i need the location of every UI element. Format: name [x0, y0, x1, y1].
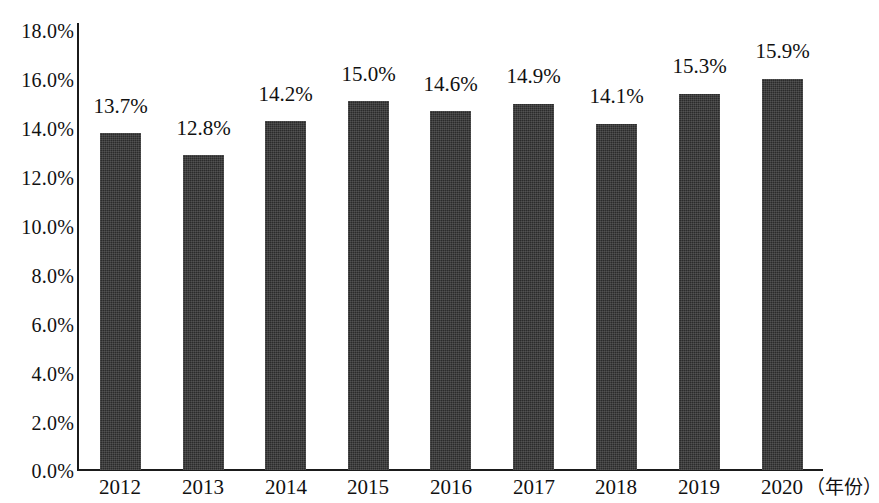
x-tick-label-2014: 2014 [241, 477, 331, 498]
x-axis-title: （年份） [806, 478, 879, 497]
bar-value-label: 14.6% [423, 74, 477, 95]
bar-rect [265, 121, 306, 470]
y-axis-line [77, 23, 79, 471]
bar-chart-figure: 18.0% 16.0% 14.0% 12.0% 10.0% 8.0% 6.0% … [0, 0, 879, 503]
y-tick-label: 14.0% [2, 119, 74, 139]
y-tick-label: 16.0% [2, 70, 74, 90]
x-tick-label-2018: 2018 [571, 477, 661, 498]
bar-value-label: 15.0% [341, 64, 395, 85]
y-axis-labels: 18.0% 16.0% 14.0% 12.0% 10.0% 8.0% 6.0% … [0, 0, 74, 503]
bar-value-label: 15.9% [755, 41, 809, 62]
bar-rect [183, 155, 224, 470]
x-tick-label-2012: 2012 [75, 477, 165, 498]
bar-rect [513, 104, 554, 470]
bar-value-label: 14.1% [589, 86, 643, 107]
bar-rect [100, 133, 141, 470]
y-tick-label: 18.0% [2, 21, 74, 41]
y-tick-label: 4.0% [2, 364, 74, 384]
bar-value-label: 14.9% [506, 66, 560, 87]
bar-rect [430, 111, 471, 470]
x-tick-label-2016: 2016 [406, 477, 496, 498]
y-tick-label: 0.0% [2, 461, 74, 481]
x-tick-label-2013: 2013 [158, 477, 248, 498]
x-tick-label-2019: 2019 [654, 477, 744, 498]
y-tick-label: 10.0% [2, 217, 74, 237]
x-tick-label-2017: 2017 [489, 477, 579, 498]
bar-rect [348, 101, 389, 470]
y-tick-label: 12.0% [2, 168, 74, 188]
bar-value-label: 14.2% [258, 84, 312, 105]
bar-rect [762, 79, 803, 470]
y-tick-label: 2.0% [2, 413, 74, 433]
y-tick-label: 6.0% [2, 315, 74, 335]
bar-value-label: 15.3% [672, 56, 726, 77]
bar-value-label: 13.7% [93, 96, 147, 117]
bar-value-label: 12.8% [176, 118, 230, 139]
bar-rect [596, 124, 637, 470]
y-tick-label: 8.0% [2, 266, 74, 286]
bar-rect [679, 94, 720, 470]
x-tick-label-2015: 2015 [323, 477, 413, 498]
